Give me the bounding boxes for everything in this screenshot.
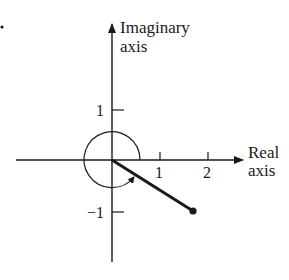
imag-tick-label-pos1: 1 xyxy=(96,102,104,119)
stray-mark xyxy=(0,25,3,28)
real-axis-label-line1: Real xyxy=(248,143,279,162)
complex-plane-diagram: Imaginary axis Real axis 1 2 1 −1 xyxy=(0,0,289,280)
imaginary-axis-label-line1: Imaginary xyxy=(120,18,190,37)
real-axis-label-line2: axis xyxy=(248,161,275,180)
vector-endpoint-dot xyxy=(189,207,196,214)
real-tick-label-2: 2 xyxy=(203,164,211,181)
imag-tick-label-neg1: −1 xyxy=(87,204,104,221)
imaginary-axis-label-line2: axis xyxy=(120,37,147,56)
real-tick-label-1: 1 xyxy=(155,164,163,181)
